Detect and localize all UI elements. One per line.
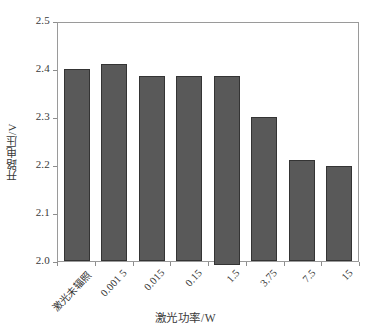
bar (101, 64, 127, 261)
x-tick-mark (170, 262, 171, 266)
bar (326, 166, 352, 261)
x-tick-label: 7.5 (300, 267, 317, 285)
bar-chart-figure: 开路电压/V 2.02.12.22.32.42.5 激光未辐照0.001 50.… (0, 0, 371, 333)
y-tick-label: 2.2 (36, 158, 50, 170)
bar-series (58, 23, 358, 261)
x-tick-mark (359, 262, 360, 266)
x-tick-mark (208, 262, 209, 266)
x-axis-title: 激光功率/W (0, 309, 371, 325)
y-tick-label: 2.4 (36, 62, 50, 74)
y-axis-tick: 2.1 (0, 214, 57, 215)
x-tick-label: 0.015 (142, 267, 167, 293)
y-axis-tick: 2.2 (0, 166, 57, 167)
bar (176, 76, 202, 261)
x-tick-label: 0.001 5 (98, 267, 128, 299)
y-tick-label: 2.5 (36, 14, 50, 26)
x-tick-mark (284, 262, 285, 266)
x-tick-mark (57, 262, 58, 266)
x-tick-label: 激光未辐照 (48, 267, 94, 315)
y-tick-label: 2.0 (36, 254, 50, 266)
x-tick-mark (95, 262, 96, 266)
bar (214, 76, 240, 265)
bar (139, 76, 165, 261)
bar (251, 117, 277, 261)
bar (289, 160, 315, 261)
y-axis-tick: 2.0 (0, 262, 57, 263)
y-tick-label: 2.3 (36, 110, 50, 122)
x-tick-mark (321, 262, 322, 266)
y-tick-label: 2.1 (36, 206, 50, 218)
x-tick-label: 15 (340, 267, 355, 282)
y-axis-tick: 2.4 (0, 70, 57, 71)
y-axis-title: 开路电压/V (2, 92, 22, 212)
x-tick-label: 1.5 (225, 267, 242, 285)
bar (64, 69, 90, 261)
x-tick-label: 3.75 (259, 267, 280, 289)
x-tick-label: 0.15 (183, 267, 204, 289)
y-axis-tick: 2.3 (0, 118, 57, 119)
plot-area (57, 22, 359, 262)
x-tick-mark (133, 262, 134, 266)
x-tick-mark (246, 262, 247, 266)
y-axis-tick: 2.5 (0, 22, 57, 23)
